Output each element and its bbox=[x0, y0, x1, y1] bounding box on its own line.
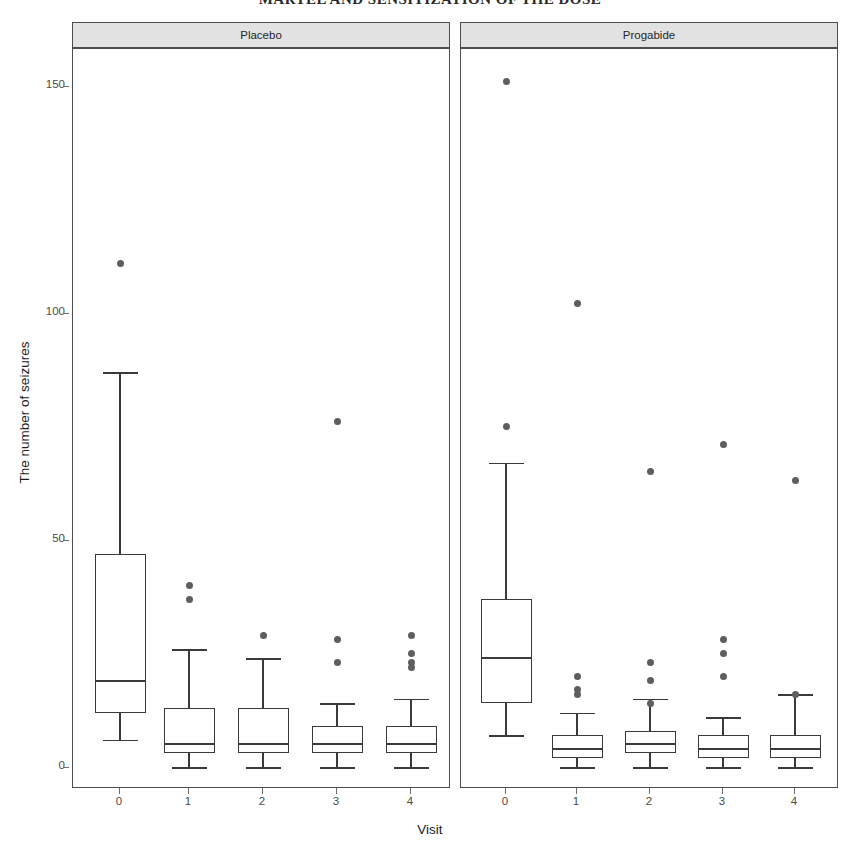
x-tick-mark bbox=[649, 788, 650, 794]
x-tick-label: 1 bbox=[173, 795, 203, 807]
x-tick-label: 2 bbox=[634, 795, 664, 807]
whisker-line-upper bbox=[262, 658, 263, 708]
whisker-line-lower bbox=[576, 758, 577, 767]
x-axis-title: Visit bbox=[0, 822, 860, 837]
box-iqr bbox=[312, 726, 363, 753]
whisker-cap-lower bbox=[489, 735, 524, 737]
box-median-line bbox=[312, 743, 363, 745]
y-tick-label: 150 bbox=[5, 78, 65, 90]
x-tick-label: 4 bbox=[395, 795, 425, 807]
x-tick-mark bbox=[794, 788, 795, 794]
outlier-point bbox=[503, 78, 510, 85]
y-tick-label: 100 bbox=[5, 305, 65, 317]
whisker-cap-lower bbox=[394, 767, 429, 769]
whisker-line-lower bbox=[119, 713, 120, 740]
box-iqr bbox=[386, 726, 437, 753]
box-median-line bbox=[481, 657, 532, 659]
x-tick-mark bbox=[336, 788, 337, 794]
y-tick-mark bbox=[63, 313, 69, 314]
whisker-line-lower bbox=[262, 753, 263, 767]
whisker-line-lower bbox=[410, 753, 411, 767]
box-median-line bbox=[95, 680, 146, 682]
whisker-line-upper bbox=[505, 463, 506, 599]
outlier-point bbox=[792, 477, 799, 484]
box-iqr bbox=[770, 735, 821, 758]
outlier-point bbox=[408, 632, 415, 639]
facet-strip-placebo: Placebo bbox=[72, 22, 450, 48]
y-tick-label: 0 bbox=[5, 759, 65, 771]
box-median-line bbox=[386, 743, 437, 745]
x-tick-mark bbox=[505, 788, 506, 794]
outlier-point bbox=[792, 691, 799, 698]
y-tick-label: 50 bbox=[5, 532, 65, 544]
box-median-line bbox=[770, 748, 821, 750]
outlier-point bbox=[260, 632, 267, 639]
whisker-cap-upper bbox=[394, 699, 429, 701]
outlier-point bbox=[408, 650, 415, 657]
whisker-cap-lower bbox=[172, 767, 207, 769]
panel-progabide bbox=[460, 48, 838, 788]
box-median-line bbox=[238, 743, 289, 745]
whisker-cap-lower bbox=[778, 767, 813, 769]
facet-strip-progabide: Progabide bbox=[460, 22, 838, 48]
outlier-point bbox=[720, 650, 727, 657]
x-tick-label: 2 bbox=[247, 795, 277, 807]
whisker-cap-upper bbox=[560, 713, 595, 715]
x-tick-label: 0 bbox=[490, 795, 520, 807]
box-median-line bbox=[698, 748, 749, 750]
x-tick-label: 4 bbox=[779, 795, 809, 807]
box-iqr bbox=[95, 554, 146, 713]
y-tick-mark bbox=[63, 86, 69, 87]
panel-placebo bbox=[72, 48, 450, 788]
x-tick-label: 3 bbox=[321, 795, 351, 807]
whisker-cap-lower bbox=[103, 740, 138, 742]
whisker-line-upper bbox=[119, 372, 120, 554]
whisker-line-lower bbox=[188, 753, 189, 767]
outlier-point bbox=[574, 673, 581, 680]
whisker-line-lower bbox=[505, 703, 506, 735]
x-tick-mark bbox=[188, 788, 189, 794]
box-iqr bbox=[164, 708, 215, 753]
whisker-line-upper bbox=[410, 699, 411, 726]
whisker-line-lower bbox=[336, 753, 337, 767]
whisker-cap-lower bbox=[560, 767, 595, 769]
whisker-line-upper bbox=[576, 713, 577, 736]
whisker-line-upper bbox=[722, 717, 723, 735]
x-tick-mark bbox=[722, 788, 723, 794]
whisker-cap-lower bbox=[633, 767, 668, 769]
whisker-cap-upper bbox=[489, 463, 524, 465]
outlier-point bbox=[720, 673, 727, 680]
outlier-point bbox=[117, 260, 124, 267]
whisker-cap-lower bbox=[320, 767, 355, 769]
x-tick-mark bbox=[119, 788, 120, 794]
whisker-cap-upper bbox=[103, 372, 138, 374]
x-tick-mark bbox=[410, 788, 411, 794]
outlier-point bbox=[334, 636, 341, 643]
box-median-line bbox=[552, 748, 603, 750]
whisker-line-lower bbox=[794, 758, 795, 767]
outlier-point bbox=[503, 423, 510, 430]
box-iqr bbox=[238, 708, 289, 753]
box-iqr bbox=[625, 731, 676, 754]
outlier-point bbox=[647, 659, 654, 666]
y-axis-title: The number of seizures bbox=[17, 303, 32, 523]
outlier-point bbox=[186, 582, 193, 589]
whisker-cap-lower bbox=[706, 767, 741, 769]
whisker-line-upper bbox=[794, 694, 795, 735]
whisker-line-upper bbox=[336, 703, 337, 726]
x-tick-label: 0 bbox=[104, 795, 134, 807]
whisker-line-upper bbox=[188, 649, 189, 708]
outlier-point bbox=[647, 700, 654, 707]
whisker-cap-upper bbox=[246, 658, 281, 660]
outlier-point bbox=[647, 468, 654, 475]
whisker-cap-lower bbox=[246, 767, 281, 769]
whisker-cap-upper bbox=[172, 649, 207, 651]
outlier-point bbox=[574, 691, 581, 698]
outlier-point bbox=[334, 418, 341, 425]
box-median-line bbox=[164, 743, 215, 745]
outlier-point bbox=[720, 636, 727, 643]
x-tick-label: 1 bbox=[561, 795, 591, 807]
outlier-point bbox=[574, 300, 581, 307]
whisker-cap-upper bbox=[320, 703, 355, 705]
whisker-line-lower bbox=[649, 753, 650, 767]
